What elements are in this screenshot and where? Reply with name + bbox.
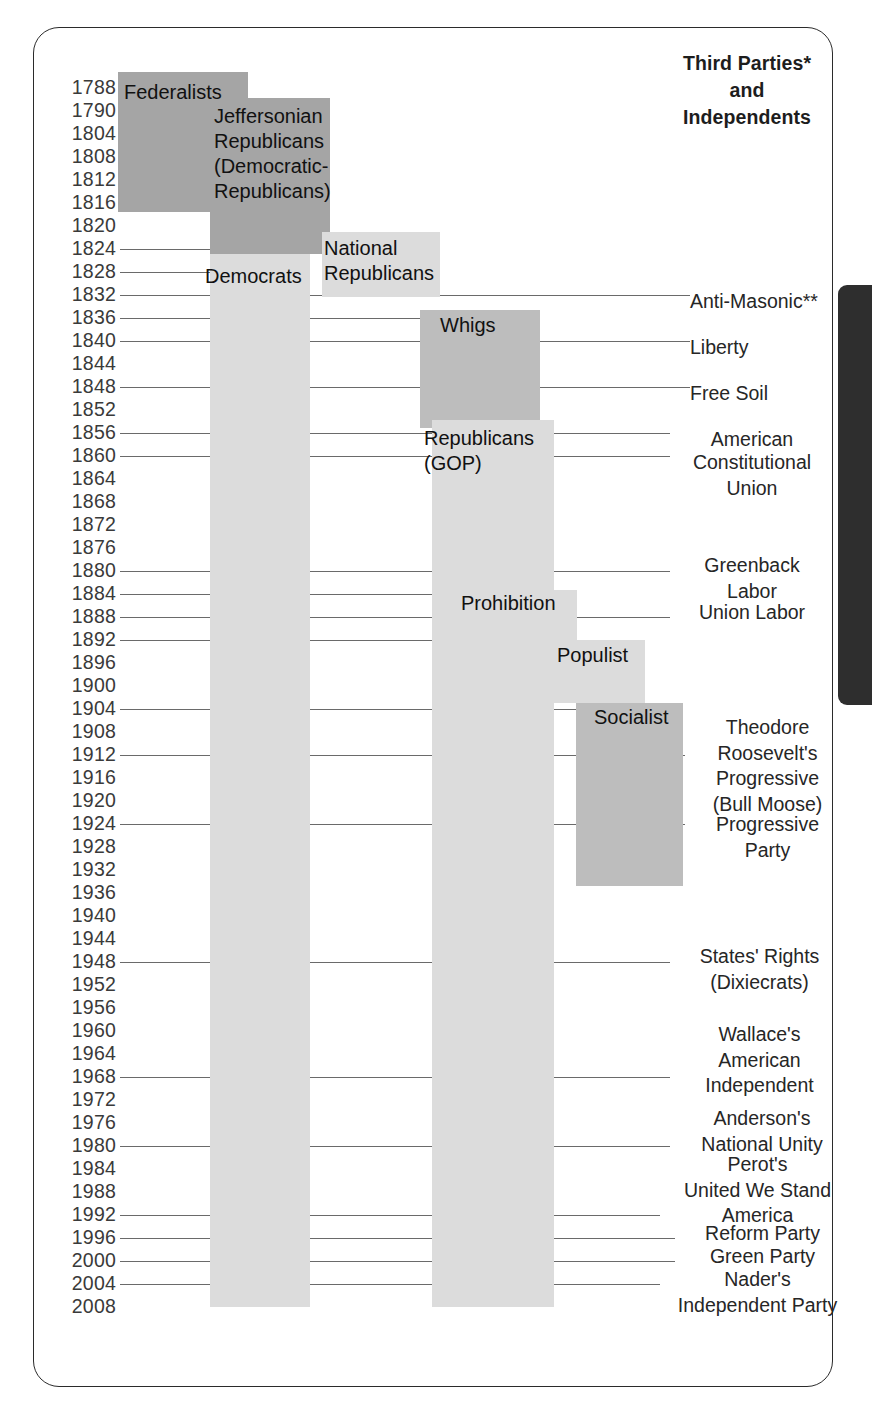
year-label-2000: 2000 xyxy=(50,1251,116,1271)
year-label-1848: 1848 xyxy=(50,377,116,397)
year-label-1844: 1844 xyxy=(50,354,116,374)
year-label-1912: 1912 xyxy=(50,745,116,765)
national-republicans-label-line-0: National xyxy=(324,236,444,261)
jeffersonian-label-line-2: (Democratic- xyxy=(214,154,338,179)
third-party-label-american: American xyxy=(672,427,832,453)
tp-naders-line-1: Independent Party xyxy=(660,1293,855,1319)
year-label-1824: 1824 xyxy=(50,239,116,259)
tp-union-labor-line-0: Union Labor xyxy=(672,600,832,626)
third-party-label-perot: Perot'sUnited We StandAmerica xyxy=(660,1152,855,1229)
rule-1996 xyxy=(120,1238,675,1239)
tp-progressive-party-line-0: Progressive xyxy=(685,812,850,838)
year-label-1920: 1920 xyxy=(50,791,116,811)
tp-liberty-line-0: Liberty xyxy=(690,335,850,361)
year-label-1976: 1976 xyxy=(50,1113,116,1133)
tp-states-rights-line-0: States' Rights xyxy=(672,944,847,970)
tp-wallace-line-0: Wallace's xyxy=(672,1022,847,1048)
year-label-1956: 1956 xyxy=(50,998,116,1018)
rule-2004 xyxy=(120,1284,660,1285)
jeffersonian-label-line-1: Republicans xyxy=(214,129,338,154)
third-party-label-reform-party: Reform Party xyxy=(675,1221,850,1247)
tp-tr-progressive-line-0: Theodore xyxy=(685,715,850,741)
year-label-2004: 2004 xyxy=(50,1274,116,1294)
rule-1888 xyxy=(120,617,670,618)
year-label-1788: 1788 xyxy=(50,78,116,98)
year-label-1928: 1928 xyxy=(50,837,116,857)
tp-tr-progressive-line-2: Progressive xyxy=(685,766,850,792)
year-label-1960: 1960 xyxy=(50,1021,116,1041)
federalists-label: Federalists xyxy=(124,80,222,105)
year-label-1904: 1904 xyxy=(50,699,116,719)
year-label-1992: 1992 xyxy=(50,1205,116,1225)
year-label-1832: 1832 xyxy=(50,285,116,305)
party-block-republicans-gop xyxy=(432,420,554,1307)
third-party-label-states-rights: States' Rights(Dixiecrats) xyxy=(672,944,847,995)
populist-label-line-0: Populist xyxy=(557,643,628,668)
rule-1840 xyxy=(120,341,690,342)
rule-1828 xyxy=(120,272,214,273)
year-label-1884: 1884 xyxy=(50,584,116,604)
party-block-socialist xyxy=(576,703,683,886)
tp-tr-progressive-line-1: Roosevelt's xyxy=(685,741,850,767)
tp-greenback-labor-line-0: Greenback xyxy=(672,553,832,579)
jeffersonian-label-line-0: Jeffersonian xyxy=(214,104,338,129)
year-label-1948: 1948 xyxy=(50,952,116,972)
third-party-label-free-soil: Free Soil xyxy=(690,381,850,407)
year-label-1876: 1876 xyxy=(50,538,116,558)
tp-anderson-line-0: Anderson's xyxy=(672,1106,852,1132)
third-party-label-tr-progressive: TheodoreRoosevelt'sProgressive(Bull Moos… xyxy=(685,715,850,817)
year-label-1852: 1852 xyxy=(50,400,116,420)
tp-naders-line-0: Nader's xyxy=(660,1267,855,1293)
rule-1992 xyxy=(120,1215,660,1216)
rule-2000 xyxy=(120,1261,675,1262)
third-party-label-constitutional-union: ConstitutionalUnion xyxy=(672,450,832,501)
tp-perot-line-0: Perot's xyxy=(660,1152,855,1178)
year-label-1980: 1980 xyxy=(50,1136,116,1156)
year-label-1840: 1840 xyxy=(50,331,116,351)
year-label-1908: 1908 xyxy=(50,722,116,742)
year-label-2008: 2008 xyxy=(50,1297,116,1317)
federalists-label-line-0: Federalists xyxy=(124,80,222,105)
year-label-1812: 1812 xyxy=(50,170,116,190)
year-label-1984: 1984 xyxy=(50,1159,116,1179)
prohibition-label: Prohibition xyxy=(461,591,556,616)
prohibition-label-line-0: Prohibition xyxy=(461,591,556,616)
rule-1880 xyxy=(120,571,670,572)
third-party-label-green-party: Green Party xyxy=(675,1244,850,1270)
year-label-1924: 1924 xyxy=(50,814,116,834)
year-label-1968: 1968 xyxy=(50,1067,116,1087)
year-label-1888: 1888 xyxy=(50,607,116,627)
jeffersonian-label-line-3: Republicans) xyxy=(214,179,338,204)
heading-line-1: and xyxy=(642,77,852,104)
year-label-1868: 1868 xyxy=(50,492,116,512)
third-parties-heading: Third Parties*andIndependents xyxy=(642,50,852,131)
third-party-label-anderson: Anderson'sNational Unity xyxy=(672,1106,852,1157)
year-label-1900: 1900 xyxy=(50,676,116,696)
tp-progressive-party-line-1: Party xyxy=(685,838,850,864)
rule-1856 xyxy=(120,433,670,434)
republicans-label-line-0: Republicans xyxy=(424,426,560,451)
year-label-1892: 1892 xyxy=(50,630,116,650)
year-label-1860: 1860 xyxy=(50,446,116,466)
tp-constitutional-union-line-1: Union xyxy=(672,476,832,502)
third-party-label-anti-masonic: Anti-Masonic** xyxy=(690,289,850,315)
national-republicans-label: NationalRepublicans xyxy=(324,236,444,286)
democrats-label: Democrats xyxy=(205,264,302,289)
republicans-label: Republicans(GOP) xyxy=(424,426,560,476)
year-label-1896: 1896 xyxy=(50,653,116,673)
year-label-1880: 1880 xyxy=(50,561,116,581)
year-label-1932: 1932 xyxy=(50,860,116,880)
tp-green-party-line-0: Green Party xyxy=(675,1244,850,1270)
tp-constitutional-union-line-0: Constitutional xyxy=(672,450,832,476)
socialist-label-line-0: Socialist xyxy=(594,705,668,730)
republicans-label-line-1: (GOP) xyxy=(424,451,560,476)
year-label-1988: 1988 xyxy=(50,1182,116,1202)
year-label-1952: 1952 xyxy=(50,975,116,995)
year-label-1828: 1828 xyxy=(50,262,116,282)
year-label-1804: 1804 xyxy=(50,124,116,144)
jeffersonian-label: JeffersonianRepublicans(Democratic-Repub… xyxy=(214,104,338,204)
rule-1948 xyxy=(120,962,670,963)
third-party-label-wallace: Wallace'sAmericanIndependent xyxy=(672,1022,847,1099)
year-label-1872: 1872 xyxy=(50,515,116,535)
rule-1860 xyxy=(120,456,670,457)
